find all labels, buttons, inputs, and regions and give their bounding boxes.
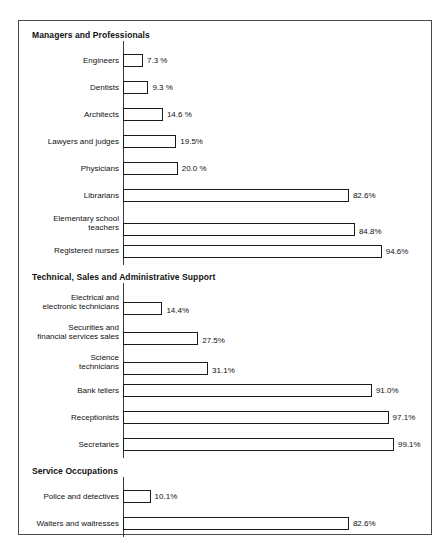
bar-label: Bank tellers <box>19 386 123 396</box>
bar[interactable] <box>123 517 349 530</box>
bar-label: Librarians <box>19 191 123 201</box>
bar[interactable] <box>123 438 394 451</box>
section-heading: Service Occupations <box>19 466 431 477</box>
bar[interactable] <box>123 223 355 236</box>
bar-label: Waiters and waitresses <box>19 519 123 529</box>
bar-label: Architects <box>19 110 123 120</box>
bar-value-label: 9.3 % <box>148 83 172 92</box>
bar-label: Receptionists <box>19 413 123 423</box>
bar-value-label: 99.1% <box>394 440 421 449</box>
bar[interactable] <box>123 162 178 175</box>
bar-value-label: 7.3 % <box>143 56 167 65</box>
bar-container: 97.1% <box>123 404 431 431</box>
bar-value-label: 91.0% <box>372 386 399 395</box>
bar-container: 19.5% <box>123 128 431 155</box>
bar-container: 82.6% <box>123 182 431 209</box>
bar-label: Electrical and electronic technicians <box>19 293 123 312</box>
bar-value-label: 94.6% <box>382 247 409 256</box>
bar[interactable] <box>123 362 208 375</box>
bar-value-label: 82.6% <box>349 519 376 528</box>
bar[interactable] <box>123 189 349 202</box>
bar-container: 20.0 % <box>123 155 431 182</box>
bar-row: Police and detectives 10.1% <box>19 483 431 510</box>
bar-container: 10.1% <box>123 483 431 510</box>
bar-label: Elementary school teachers <box>19 214 123 233</box>
bar-container: 82.6% <box>123 510 431 537</box>
bar-value-label: 31.1% <box>208 366 235 375</box>
section-heading: Technical, Sales and Administrative Supp… <box>19 272 431 283</box>
bar-value-label: 10.1% <box>151 492 178 501</box>
bar[interactable] <box>123 302 162 315</box>
chart-section-technical-sales-and-administrative-support: Technical, Sales and Administrative Supp… <box>19 265 431 458</box>
bar-container: 14.6 % <box>123 101 431 128</box>
bar-value-label: 20.0 % <box>178 164 207 173</box>
bar-rows: Electrical and electronic technicians 14… <box>19 283 431 458</box>
bar[interactable] <box>123 332 198 345</box>
bar-container: 99.1% <box>123 431 431 458</box>
bar[interactable] <box>123 411 389 424</box>
bar-row: Dentists 9.3 % <box>19 74 431 101</box>
bar-label: Securities and financial services sales <box>19 323 123 342</box>
bar-row: Registered nurses 94.6% <box>19 237 431 265</box>
bar-value-label: 27.5% <box>198 336 225 345</box>
bar-label: Lawyers and judges <box>19 137 123 147</box>
bar-row: Waiters and waitresses 82.6% <box>19 510 431 537</box>
section-heading: Managers and Professionals <box>19 30 431 41</box>
bar-container: 7.3 % <box>123 47 431 74</box>
bar-container: 94.6% <box>123 237 431 265</box>
bar-rows: Engineers 7.3 % Dentists 9.3 % Architect… <box>19 41 431 265</box>
bar-value-label: 84.8% <box>355 227 382 236</box>
bar-row: Librarians 82.6% <box>19 182 431 209</box>
bar-row: Securities and financial services sales … <box>19 317 431 347</box>
bar[interactable] <box>123 108 163 121</box>
bar-row: Physicians 20.0 % <box>19 155 431 182</box>
chart-frame: Managers and Professionals Engineers 7.3… <box>18 20 432 535</box>
bar-row: Secretaries 99.1% <box>19 431 431 458</box>
bar-container: 31.1% <box>123 345 431 379</box>
bar-container: 91.0% <box>123 377 431 404</box>
bar-row: Electrical and electronic technicians 14… <box>19 287 431 317</box>
bar-row: Elementary school teachers 84.8% <box>19 209 431 237</box>
bar-value-label: 19.5% <box>176 137 203 146</box>
bar-container: 14.4% <box>123 285 431 319</box>
bar-label: Physicians <box>19 164 123 174</box>
chart-section-managers-and-professionals: Managers and Professionals Engineers 7.3… <box>19 21 431 265</box>
bar-container: 9.3 % <box>123 74 431 101</box>
bar-label: Science technicians <box>19 353 123 372</box>
chart-section-service-occupations: Service Occupations Police and detective… <box>19 458 431 537</box>
bar-row: Science technicians 31.1% <box>19 347 431 377</box>
bar-label: Secretaries <box>19 440 123 450</box>
bar-label: Registered nurses <box>19 246 123 256</box>
bar-container: 84.8% <box>123 208 431 239</box>
bar-value-label: 97.1% <box>389 413 416 422</box>
bar-label: Engineers <box>19 56 123 66</box>
bar-value-label: 14.6 % <box>163 110 192 119</box>
bar-row: Architects 14.6 % <box>19 101 431 128</box>
bar-row: Engineers 7.3 % <box>19 47 431 74</box>
bar-row: Lawyers and judges 19.5% <box>19 128 431 155</box>
bar[interactable] <box>123 490 151 503</box>
bar-rows: Police and detectives 10.1% Waiters and … <box>19 477 431 537</box>
bar[interactable] <box>123 81 148 94</box>
bar-row: Bank tellers 91.0% <box>19 377 431 404</box>
bar-value-label: 14.4% <box>162 306 189 315</box>
bar-value-label: 82.6% <box>349 191 376 200</box>
bar[interactable] <box>123 54 143 67</box>
bar[interactable] <box>123 245 382 258</box>
bar[interactable] <box>123 384 372 397</box>
bar-row: Receptionists 97.1% <box>19 404 431 431</box>
bar-container: 27.5% <box>123 315 431 349</box>
bar[interactable] <box>123 135 176 148</box>
bar-label: Dentists <box>19 83 123 93</box>
bar-label: Police and detectives <box>19 492 123 502</box>
